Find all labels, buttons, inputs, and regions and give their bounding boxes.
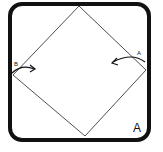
paper-diamond xyxy=(13,6,146,136)
fold-label-b: B xyxy=(14,61,18,67)
step-label: A xyxy=(133,121,141,135)
fold-label-a: A xyxy=(137,50,141,56)
origami-step-diagram: B A A xyxy=(0,0,163,152)
fold-arrow-left-icon xyxy=(113,57,145,62)
